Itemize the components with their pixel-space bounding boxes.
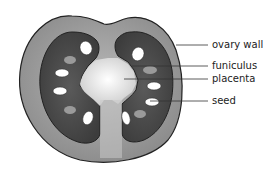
- seed: [55, 69, 69, 77]
- label-seed: seed: [212, 95, 236, 106]
- seed: [147, 82, 161, 90]
- placenta-stalk: [100, 100, 122, 158]
- tomato-diagram: ovary wall funiculus placenta seed: [0, 0, 269, 171]
- seed: [145, 98, 159, 106]
- label-placenta: placenta: [212, 73, 255, 84]
- seed: [134, 110, 146, 118]
- label-funiculus: funiculus: [212, 60, 257, 71]
- seed: [64, 106, 76, 114]
- label-ovary-wall: ovary wall: [212, 39, 263, 50]
- seed: [143, 66, 157, 74]
- seed: [53, 87, 67, 95]
- seed: [64, 56, 76, 64]
